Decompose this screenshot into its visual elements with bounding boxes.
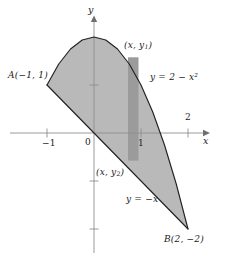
point-b-label: B(2, −2) [164, 235, 204, 244]
lower-point-label: (x, y2) [96, 168, 124, 177]
origin-label: 0 [85, 138, 91, 147]
y-axis-arrow [91, 16, 97, 23]
upper-point-text: (x, y [124, 40, 144, 50]
x-axis-label: x [203, 136, 209, 146]
lower-point-text: (x, y [96, 167, 116, 177]
upper-point-label: (x, y1) [124, 41, 152, 50]
representative-strip [128, 57, 139, 160]
line-equation-label: y = −x [126, 195, 158, 204]
math-figure [0, 0, 225, 263]
x-tick-label-1: 1 [138, 139, 144, 148]
y-axis-label: y [88, 5, 94, 15]
lower-point-paren: ) [121, 167, 125, 177]
upper-point-paren: ) [149, 40, 153, 50]
point-a-label: A(−1, 1) [8, 71, 48, 80]
parabola-equation-label: y = 2 − x² [150, 73, 198, 82]
x-tick-label--1: −1 [42, 139, 56, 148]
x-tick-label-2: 2 [185, 113, 191, 122]
